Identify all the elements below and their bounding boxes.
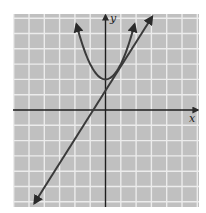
coordinate-graph: x y	[0, 0, 206, 213]
x-axis-label: x	[189, 112, 196, 125]
y-axis-label: y	[109, 12, 117, 25]
